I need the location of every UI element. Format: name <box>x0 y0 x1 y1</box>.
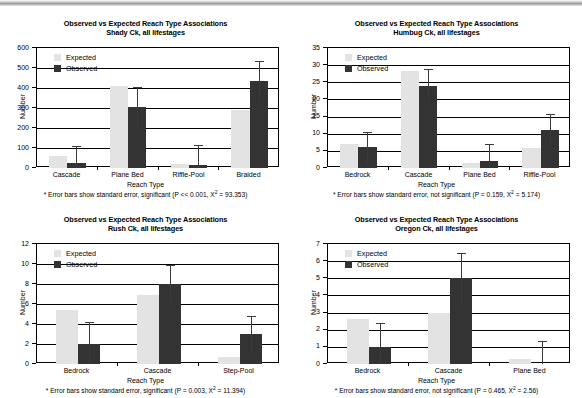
y-tick-mark <box>323 47 327 48</box>
legend-swatch-expected-icon <box>54 250 61 257</box>
y-tick-mark <box>323 277 327 278</box>
chart-footnote: * Error bars show standard error, signif… <box>0 387 291 394</box>
x-tick-label: Bedrock <box>327 171 388 179</box>
error-bar-cap-top <box>166 265 175 266</box>
x-tick-mark <box>408 363 409 366</box>
chart-panel-humbug-ck: Observed vs Expected Reach Type Associat… <box>291 6 582 202</box>
y-tick-mark <box>323 116 327 117</box>
chart-title: Observed vs Expected Reach Type Associat… <box>0 215 291 224</box>
y-tick-mark <box>323 133 327 134</box>
error-bar-cap-top <box>85 322 94 323</box>
chart-title: Observed vs Expected Reach Type Associat… <box>0 19 291 28</box>
error-bar-line <box>550 114 551 146</box>
x-tick-label: Cascade <box>388 171 449 179</box>
chart-title: Observed vs Expected Reach Type Associat… <box>291 215 582 224</box>
x-tick-mark <box>509 167 510 170</box>
error-bar-cap-top <box>255 61 264 62</box>
legend-swatch-expected-icon <box>345 250 352 257</box>
y-tick-label: 10 <box>0 260 29 267</box>
y-tick-mark <box>323 260 327 261</box>
chart-grid: Observed vs Expected Reach Type Associat… <box>0 6 582 398</box>
footnote-text-after: = 93.353) <box>217 191 247 198</box>
x-tick-label: Step-Pool <box>198 367 279 375</box>
y-tick-mark <box>323 150 327 151</box>
y-tick-label: 600 <box>0 44 29 51</box>
x-tick-mark <box>198 363 199 366</box>
error-bar-cap-top <box>457 253 466 254</box>
footnote-text-before: * Error bars show standard error, not si… <box>333 191 511 198</box>
legend-label: Observed <box>66 63 97 74</box>
y-tick-mark <box>32 303 36 304</box>
chart-title-block: Observed vs Expected Reach Type Associat… <box>0 19 291 37</box>
x-tick-label: Cascade <box>117 367 198 375</box>
error-bar-line <box>170 265 171 303</box>
y-tick-mark <box>323 98 327 99</box>
y-tick-mark <box>32 127 36 128</box>
x-tick-label: Plane Bed <box>97 171 158 179</box>
gridline <box>37 108 278 109</box>
y-tick-label: 500 <box>0 64 29 71</box>
error-bar-cap-top <box>72 146 81 147</box>
error-bar-cap-top <box>194 145 203 146</box>
y-tick-label: 30 <box>291 61 320 68</box>
legend-label: Observed <box>357 63 388 74</box>
y-tick-label: 100 <box>0 144 29 151</box>
y-tick-mark <box>32 323 36 324</box>
y-tick-label: 0 <box>0 164 29 171</box>
bar-expected <box>462 163 480 168</box>
x-axis-title: Reach Type <box>0 377 291 384</box>
bar-expected <box>110 86 128 168</box>
x-tick-mark <box>388 167 389 170</box>
legend-label: Observed <box>66 259 97 270</box>
y-tick-mark <box>323 81 327 82</box>
y-tick-mark <box>32 167 36 168</box>
legend-swatch-observed-icon <box>54 65 61 72</box>
x-tick-label: Plane Bed <box>449 171 510 179</box>
bar-expected <box>401 71 419 168</box>
gridline <box>37 284 278 285</box>
x-tick-label: Riffle-Pool <box>509 171 570 179</box>
legend-swatch-expected-icon <box>54 54 61 61</box>
legend-swatch-observed-icon <box>345 65 352 72</box>
bar-expected <box>171 164 189 168</box>
x-tick-mark <box>97 167 98 170</box>
chart-footnote: * Error bars show standard error, not si… <box>291 191 582 198</box>
y-axis-title: Number <box>19 77 26 137</box>
bar-expected <box>231 110 249 168</box>
bar-expected <box>347 319 369 364</box>
footnote-text-after: = 11.394) <box>216 387 245 394</box>
error-bar-line <box>461 253 462 306</box>
error-bar-cap-top <box>485 144 494 145</box>
y-tick-mark <box>32 343 36 344</box>
bar-expected <box>56 310 78 364</box>
error-bar-cap-top <box>376 323 385 324</box>
x-tick-mark <box>158 167 159 170</box>
error-bar-line <box>380 323 381 364</box>
y-tick-mark <box>323 294 327 295</box>
y-tick-mark <box>323 346 327 347</box>
x-axis-title: Reach Type <box>291 181 582 188</box>
x-tick-label: Cascade <box>36 171 97 179</box>
error-bar-cap-top <box>363 132 372 133</box>
error-bar-line <box>428 69 429 103</box>
footnote-text-after: = 5.174) <box>514 191 540 198</box>
y-tick-label: 7 <box>291 240 320 247</box>
chart-title-block: Observed vs Expected Reach Type Associat… <box>291 215 582 233</box>
y-tick-mark <box>32 67 36 68</box>
chart-subtitle: Shady Ck, all lifestages <box>0 28 291 37</box>
bar-expected <box>49 156 67 168</box>
chart-panel-oregon-ck: Observed vs Expected Reach Type Associat… <box>291 202 582 398</box>
y-axis-title: Number <box>310 273 317 333</box>
error-bar-line <box>259 61 260 103</box>
x-tick-label: Plane Bed <box>489 367 570 375</box>
chart-footnote: * Error bars show standard error, signif… <box>0 191 291 198</box>
bar-expected <box>137 295 159 364</box>
bar-expected <box>218 357 240 364</box>
gridline <box>328 295 569 296</box>
chart-title-block: Observed vs Expected Reach Type Associat… <box>0 215 291 233</box>
gridline <box>328 99 569 100</box>
error-bar-line <box>489 144 490 168</box>
y-tick-label: 0 <box>291 360 320 367</box>
legend-swatch-observed-icon <box>54 261 61 268</box>
chart-footnote: * Error bars show standard error, not si… <box>291 387 582 394</box>
